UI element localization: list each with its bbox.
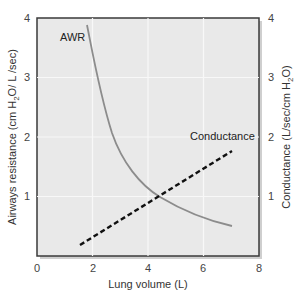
x-tick: 2: [90, 262, 96, 274]
chart: AWR Conductance 4 3 2 1 4 3 2 1 0 2 4 6 …: [0, 0, 299, 295]
y-right-tick: 1: [268, 190, 274, 202]
x-tick: 0: [34, 262, 40, 274]
y-right-tick: 2: [268, 131, 274, 143]
y-axis-label: Airways resistance (cm H2O/ L /sec): [6, 49, 21, 225]
conductance-label: Conductance: [190, 130, 255, 142]
y-tick: 3: [24, 71, 30, 83]
y-tick: 4: [24, 12, 30, 24]
awr-label: AWR: [60, 31, 85, 43]
x-tick: 6: [200, 262, 206, 274]
x-axis-label: Lung volume (L): [108, 278, 188, 290]
x-tick: 4: [145, 262, 151, 274]
y-right-axis-label: Conductance (L/sec/cm H2O): [280, 65, 295, 208]
y-tick: 1: [24, 190, 30, 202]
y-tick: 2: [24, 131, 30, 143]
y-right-tick: 4: [268, 12, 274, 24]
x-tick: 8: [256, 262, 262, 274]
y-right-tick: 3: [268, 71, 274, 83]
x-ticks: 0 2 4 6 8: [34, 262, 262, 274]
right-y-ticks: 4 3 2 1: [268, 12, 274, 202]
left-y-ticks: 4 3 2 1: [24, 12, 30, 202]
